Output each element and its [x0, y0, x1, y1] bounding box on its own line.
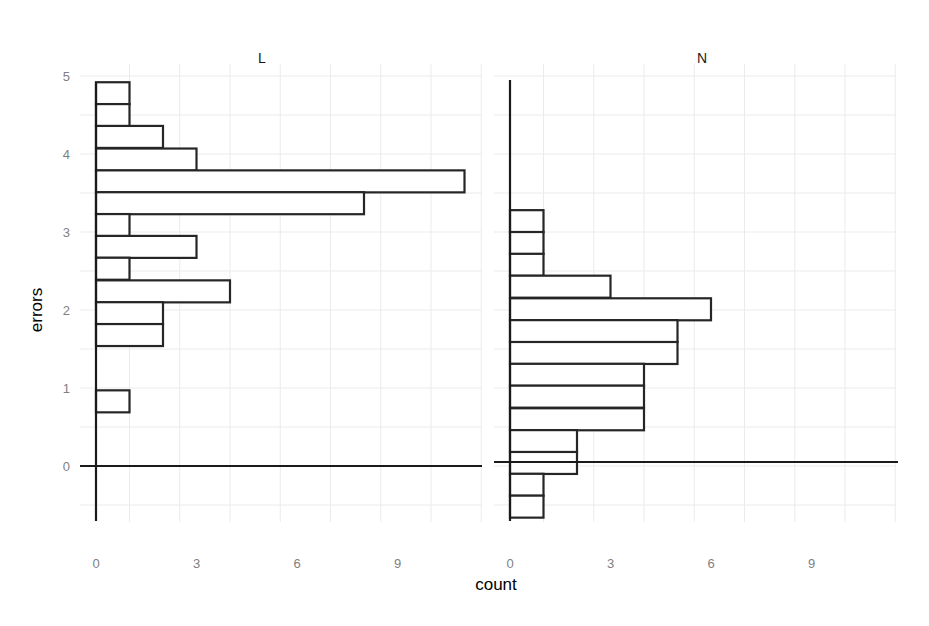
- histogram-bar: [510, 254, 544, 276]
- histogram-bar: [510, 342, 678, 364]
- histogram-bar: [96, 214, 130, 236]
- histogram-bar: [96, 302, 163, 324]
- histogram-bar: [510, 386, 644, 408]
- histogram-bar: [96, 126, 163, 148]
- x-tick-label: 9: [808, 556, 815, 571]
- y-tick-label: 2: [63, 303, 70, 318]
- histogram-bars: [96, 82, 711, 517]
- x-tick-label: 0: [506, 556, 513, 571]
- x-tick-label: 6: [293, 556, 300, 571]
- x-tick-label: 0: [92, 556, 99, 571]
- y-tick-label: 1: [63, 381, 70, 396]
- histogram-bar: [510, 474, 544, 496]
- faceted-histogram-chart: 03690369012345 L N count errors: [0, 0, 929, 626]
- histogram-bar: [510, 210, 544, 232]
- y-axis-title: errors: [27, 288, 46, 332]
- histogram-bar: [96, 149, 197, 171]
- histogram-bar: [96, 258, 130, 280]
- x-tick-label: 6: [707, 556, 714, 571]
- x-axis-title: count: [475, 575, 517, 594]
- histogram-bar: [96, 170, 465, 192]
- y-tick-label: 4: [63, 147, 70, 162]
- histogram-bar: [96, 104, 130, 126]
- panel-title-N: N: [697, 50, 707, 66]
- histogram-bar: [510, 364, 644, 386]
- histogram-bar: [510, 430, 577, 452]
- histogram-bar: [96, 82, 130, 104]
- y-tick-label: 5: [63, 69, 70, 84]
- histogram-bar: [510, 232, 544, 254]
- x-tick-label: 3: [193, 556, 200, 571]
- panel-title-L: L: [258, 50, 266, 66]
- histogram-bar: [510, 298, 711, 320]
- histogram-bar: [510, 496, 544, 518]
- histogram-bar: [96, 324, 163, 346]
- histogram-bar: [510, 408, 644, 430]
- histogram-bar: [510, 320, 678, 342]
- x-tick-label: 3: [607, 556, 614, 571]
- y-tick-label: 0: [63, 459, 70, 474]
- y-tick-label: 3: [63, 225, 70, 240]
- histogram-bar: [96, 390, 130, 412]
- histogram-bar: [510, 276, 611, 298]
- x-tick-label: 9: [394, 556, 401, 571]
- histogram-bar: [96, 236, 197, 258]
- histogram-bar: [96, 280, 230, 302]
- histogram-bar: [96, 192, 364, 214]
